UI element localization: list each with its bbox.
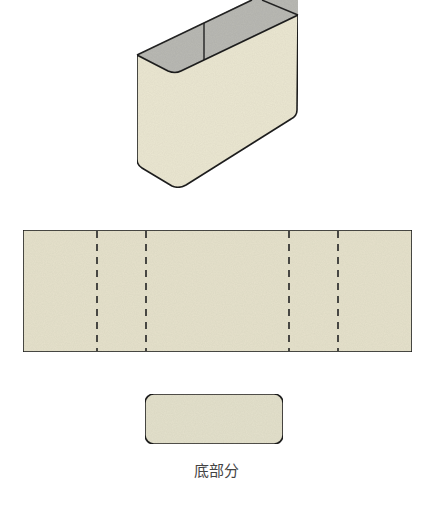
bottom-piece xyxy=(145,394,283,444)
side-strip-rect xyxy=(23,230,412,352)
side-strip xyxy=(23,230,412,352)
bottom-piece-label: 底部分 xyxy=(0,459,433,480)
box-diagram xyxy=(0,0,433,506)
box-3d xyxy=(137,0,298,187)
